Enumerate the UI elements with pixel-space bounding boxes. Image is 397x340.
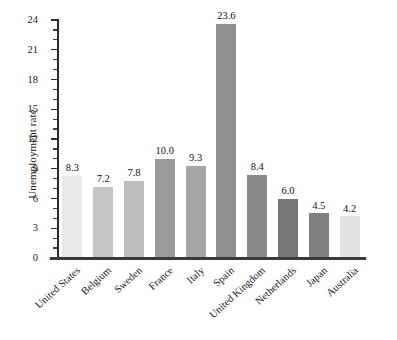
x-axis-category-label: France	[0, 265, 175, 340]
x-axis-category-labels: United StatesBelgiumSwedenFranceItalySpa…	[0, 0, 397, 340]
unemployment-rate-bar-chart: Unemployment rate 03691215182124 8.37.27…	[0, 0, 397, 340]
